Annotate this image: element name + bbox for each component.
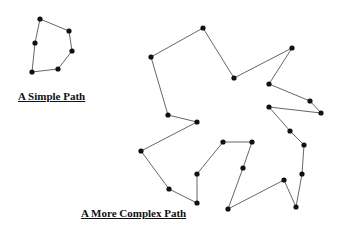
complex-path: [138, 25, 323, 211]
path-node: [289, 45, 294, 50]
path-edges: [141, 28, 321, 209]
path-node: [194, 171, 199, 176]
path-node: [266, 104, 271, 109]
path-node: [194, 119, 199, 124]
path-node: [194, 200, 199, 205]
path-node: [220, 139, 225, 144]
path-node: [55, 66, 60, 71]
path-node: [165, 112, 170, 117]
path-edges: [32, 19, 72, 72]
path-node: [249, 139, 254, 144]
path-node: [293, 204, 298, 209]
path-node: [37, 16, 42, 21]
path-node: [200, 25, 205, 30]
path-node: [29, 69, 34, 74]
path-node: [307, 98, 312, 103]
diagram-canvas: A Simple Path A More Complex Path: [0, 0, 339, 235]
path-node: [231, 75, 236, 80]
path-node: [287, 128, 292, 133]
path-node: [138, 148, 143, 153]
path-node: [166, 186, 171, 191]
path-node: [225, 206, 230, 211]
path-node: [66, 28, 71, 33]
path-node: [69, 48, 74, 53]
paths-drawing: [0, 0, 339, 235]
path-node: [32, 40, 37, 45]
path-node: [301, 142, 306, 147]
path-node: [281, 177, 286, 182]
path-node: [299, 171, 304, 176]
path-node: [240, 165, 245, 170]
simple-path-caption: A Simple Path: [18, 90, 85, 102]
path-node: [318, 110, 323, 115]
simple-path: [29, 16, 74, 74]
path-node: [148, 54, 153, 59]
path-node: [266, 81, 271, 86]
complex-path-caption: A More Complex Path: [81, 207, 186, 219]
